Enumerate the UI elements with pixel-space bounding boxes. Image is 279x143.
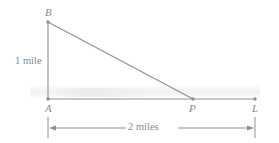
measure-label-vertical: 1 mile <box>15 56 42 67</box>
vertex-label-p: P <box>189 103 196 114</box>
vertex-dot-p <box>191 97 194 100</box>
dimension-arrowhead-right <box>247 125 254 130</box>
vertex-label-b: B <box>45 7 52 18</box>
vertex-dot-a <box>46 97 49 100</box>
dimension-arrowhead-left <box>49 125 56 130</box>
measure-label-horizontal: 2 miles <box>128 122 159 133</box>
segment-hypotenuse <box>48 22 193 99</box>
vertex-dot-l <box>253 97 256 100</box>
vertex-label-a: A <box>45 103 52 114</box>
vertex-dot-b <box>46 20 49 23</box>
geometry-figure: B A P L 1 mile 2 miles <box>0 0 279 143</box>
vertex-label-l: L <box>252 103 258 114</box>
